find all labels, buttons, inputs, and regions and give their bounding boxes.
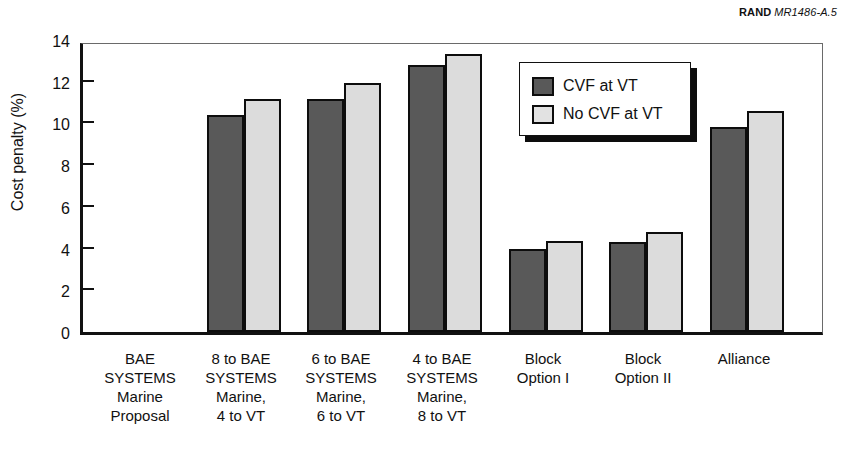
category-label-line: Marine,: [382, 387, 502, 406]
bar-cvf-at-vt: [710, 127, 747, 332]
y-axis-tick: [83, 121, 94, 123]
bar-cvf-at-vt: [307, 99, 344, 332]
bar-no-cvf-at-vt: [646, 232, 683, 332]
category-label-line: Option II: [583, 368, 703, 387]
x-axis-category-label: Alliance: [684, 349, 804, 368]
bar-cvf-at-vt: [207, 115, 244, 332]
legend-label-cvf-at-vt: CVF at VT: [563, 77, 638, 95]
y-axis-tick: [83, 205, 94, 207]
y-axis-tick-label: 10: [24, 116, 70, 134]
y-axis-tick-label: 8: [24, 158, 70, 176]
y-axis-tick-label: 14: [24, 33, 70, 51]
y-axis-tick-label: 12: [24, 75, 70, 93]
bar-cvf-at-vt: [509, 249, 546, 332]
y-axis-tick-label: 2: [24, 283, 70, 301]
legend-swatch-cvf-at-vt: [532, 77, 554, 96]
legend-label-no-cvf-at-vt: No CVF at VT: [563, 105, 663, 123]
category-label-line: Alliance: [684, 349, 804, 368]
y-axis-tick-label: 0: [24, 325, 70, 343]
bar-chart-figure: Cost penalty (%) 02468101214 BAESYSTEMSM…: [0, 0, 845, 453]
bar-no-cvf-at-vt: [747, 111, 784, 332]
legend-swatch-no-cvf-at-vt: [532, 105, 554, 124]
y-axis-tick-label: 6: [24, 200, 70, 218]
chart-legend: CVF at VT No CVF at VT: [519, 62, 691, 136]
bar-no-cvf-at-vt: [445, 54, 482, 332]
bar-no-cvf-at-vt: [344, 83, 381, 332]
legend-item: CVF at VT: [532, 72, 690, 100]
y-axis-tick-label: 4: [24, 242, 70, 260]
bar-cvf-at-vt: [408, 65, 445, 332]
bar-no-cvf-at-vt: [244, 99, 281, 332]
y-axis-tick: [83, 288, 94, 290]
y-axis-tick: [83, 247, 94, 249]
y-axis-tick: [83, 80, 94, 82]
bar-cvf-at-vt: [609, 242, 646, 332]
y-axis-tick: [83, 163, 94, 165]
plot-area: [80, 43, 823, 335]
legend-item: No CVF at VT: [532, 100, 690, 128]
bar-no-cvf-at-vt: [546, 241, 583, 332]
category-label-line: 8 to VT: [382, 406, 502, 425]
